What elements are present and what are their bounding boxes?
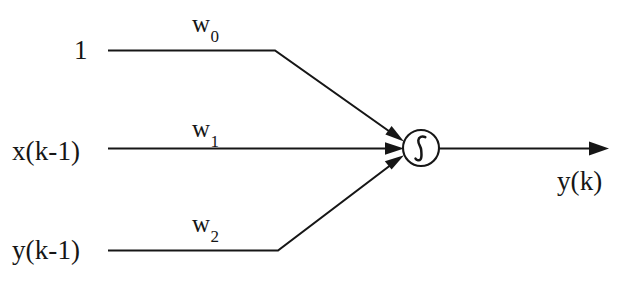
connection-y-k-1: [108, 155, 404, 250]
weight-label-w1: w1: [192, 116, 219, 146]
weight-symbol-w1: w: [192, 115, 210, 142]
weight-subscript-w1: 1: [211, 132, 220, 151]
input-label-x-k-1: x(k-1): [12, 138, 80, 165]
diagram-canvas: [0, 0, 625, 285]
arrowhead-output: [589, 142, 609, 156]
activation-node: [403, 130, 439, 166]
weight-subscript-w2: 2: [211, 227, 220, 246]
input-label-y-k-1: y(k-1): [12, 237, 80, 264]
arrowhead-x-k-1: [385, 142, 404, 155]
weight-label-w2: w2: [192, 211, 219, 241]
arrowhead-bias: [385, 126, 404, 142]
weight-symbol-w2: w: [192, 210, 210, 237]
connection-output: [439, 142, 609, 156]
output-label-y-k: y(k): [557, 168, 602, 195]
weight-subscript-w0: 0: [211, 27, 220, 46]
input-label-bias: 1: [74, 37, 88, 64]
connection-x-k-1: [108, 142, 404, 155]
weight-symbol-w0: w: [192, 10, 210, 37]
neuron-diagram: 1 x(k-1) y(k-1) y(k) w0 w1 w2: [0, 0, 625, 285]
weight-label-w0: w0: [192, 11, 219, 41]
connection-line-bias: [108, 51, 398, 138]
connection-bias: [108, 51, 404, 142]
connection-line-y-k-1: [108, 160, 398, 251]
